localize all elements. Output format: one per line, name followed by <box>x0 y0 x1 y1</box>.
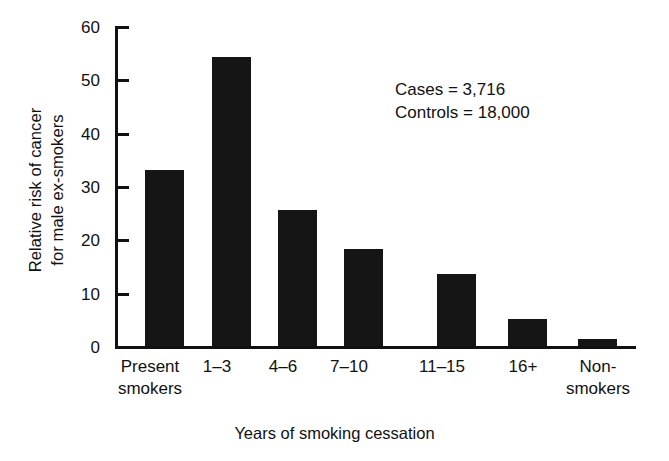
bar-7-10 <box>344 249 383 346</box>
y-tick-label-60: 60 <box>60 19 100 36</box>
x-tick-label-11-15-line-1: 11–15 <box>397 356 487 378</box>
bar-16-plus <box>508 319 547 346</box>
y-tick-label-20: 20 <box>60 232 100 249</box>
annotation-cases: Cases = 3,716 <box>395 78 530 101</box>
plot-area <box>115 26 636 346</box>
chart-annotation: Cases = 3,716 Controls = 18,000 <box>395 78 530 124</box>
y-tick-label-10: 10 <box>60 286 100 303</box>
bar-1-3 <box>212 57 251 346</box>
x-tick-label-non-smokers: Non- smokers <box>548 356 648 400</box>
x-tick-label-non-smokers-line-1: Non- <box>548 356 648 378</box>
x-axis-line <box>115 346 636 349</box>
y-tick-label-50: 50 <box>60 72 100 89</box>
y-tick-label-0: 0 <box>60 339 100 356</box>
bar-4-6 <box>278 210 317 346</box>
bar-11-15 <box>437 274 476 347</box>
y-axis-title-line-1: Relative risk of cancer <box>24 108 46 273</box>
x-axis-title: Years of smoking cessation <box>0 424 669 443</box>
x-tick-label-non-smokers-line-2: smokers <box>548 378 648 400</box>
annotation-controls: Controls = 18,000 <box>395 101 530 124</box>
x-tick-label-7-10: 7–10 <box>309 356 389 378</box>
chart-figure: Relative risk of cancer for male ex-smok… <box>0 0 669 461</box>
x-tick-label-present-smokers-line-2: smokers <box>100 378 200 400</box>
x-tick-label-11-15: 11–15 <box>397 356 487 378</box>
y-tick-label-30: 30 <box>60 179 100 196</box>
bar-present-smokers <box>145 170 184 346</box>
y-tick-label-40: 40 <box>60 126 100 143</box>
bar-non-smokers <box>578 339 617 346</box>
x-tick-label-7-10-line-1: 7–10 <box>309 356 389 378</box>
